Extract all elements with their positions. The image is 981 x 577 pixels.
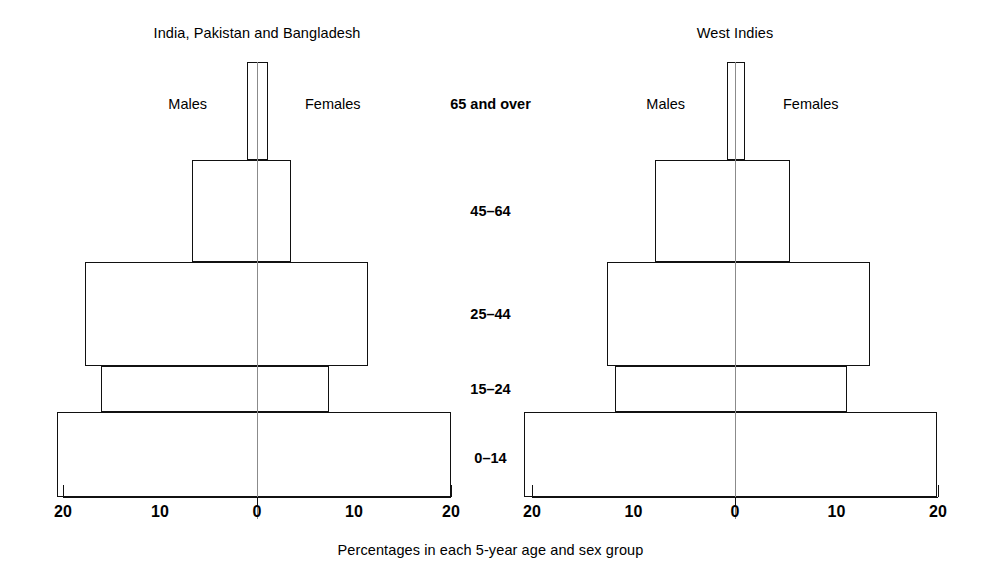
population-pyramid-figure: India, Pakistan and Bangladesh Males Fem… bbox=[0, 0, 981, 577]
age-group-label: 45–64 bbox=[0, 203, 981, 219]
age-group-label: 0–14 bbox=[0, 450, 981, 466]
age-group-label: 15–24 bbox=[0, 381, 981, 397]
figure-caption: Percentages in each 5-year age and sex g… bbox=[0, 542, 981, 558]
age-group-label-column: 65 and over45–6425–4415–240–14 bbox=[0, 0, 981, 577]
age-group-label: 25–44 bbox=[0, 306, 981, 322]
age-group-label: 65 and over bbox=[0, 96, 981, 112]
